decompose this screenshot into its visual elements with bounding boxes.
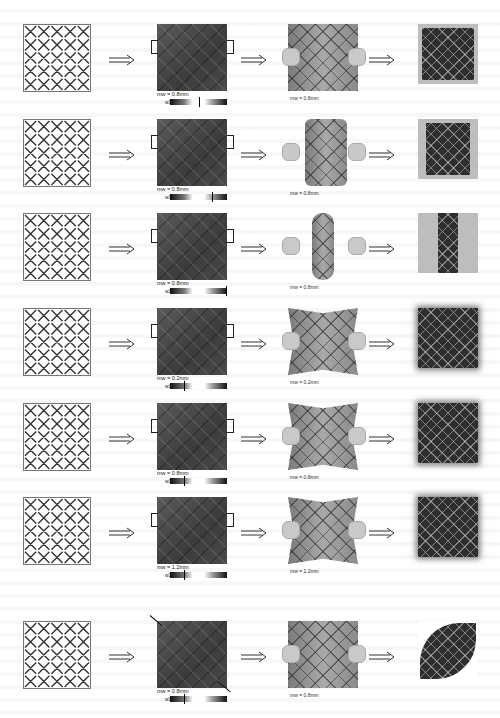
figure-row-4: mw = 0.2mm w1 = mw = 0.2mm [0,308,500,404]
implies-arrow-icon [240,527,268,539]
colorbar [170,288,227,294]
implies-arrow-icon [368,338,396,350]
implies-arrow-icon [240,243,268,255]
implies-arrow-icon [368,149,396,161]
colorbar-marker [199,97,200,107]
implies-arrow-icon [368,433,396,445]
colorbar [170,383,227,389]
sim-mw-label: mw = 0.8mm [157,280,189,286]
right-clamp-icon [227,135,234,149]
implies-arrow-icon [240,149,268,161]
x-lattice-icon [24,214,90,280]
left-finger-icon [282,143,300,161]
final-shape [418,403,478,463]
left-finger-icon [282,48,300,66]
right-clamp-icon [227,324,234,338]
simulated-pattern [157,497,227,564]
simulated-pattern [157,403,227,470]
implies-arrow-icon [108,651,136,663]
right-finger-icon [348,427,366,445]
implies-arrow-icon [368,243,396,255]
x-lattice-icon [24,404,90,470]
right-finger-icon [348,645,366,663]
implies-arrow-icon [108,243,136,255]
sim-mw-label: mw = 0.8mm [157,186,189,192]
colorbar-marker [184,476,185,486]
x-lattice-icon [24,309,90,375]
simulated-pattern [157,213,227,280]
colorbar [170,572,227,578]
figure-row-3: mw = 0.8mm w1 = mw = 0.8mm [0,213,500,309]
implies-arrow-icon [368,54,396,66]
right-clamp-icon [227,40,234,54]
right-clamp-icon [227,513,234,527]
lattice-pattern [23,119,91,187]
implies-arrow-icon [108,338,136,350]
final-shape [418,213,478,273]
left-finger-icon [282,427,300,445]
colorbar-marker [184,381,185,391]
implies-arrow-icon [368,527,396,539]
deformation-photo [312,213,334,280]
left-finger-icon [282,645,300,663]
implies-arrow-icon [368,651,396,663]
x-lattice-icon [24,120,90,186]
figure-row-7: mw = 0.8mm w1 = mw = 0.8mm [0,621,500,717]
x-lattice-icon [24,498,90,564]
left-clamp-icon [151,513,158,527]
final-shape [418,24,478,84]
colorbar [170,696,227,702]
colorbar [170,478,227,484]
figure-row-5: mw = 0.8mm w1 = mw = 0.8mm [0,403,500,499]
deformation-photo [305,119,347,186]
simulated-pattern [157,621,227,688]
implies-arrow-icon [108,527,136,539]
implies-arrow-icon [108,149,136,161]
figure-row-6: mw = 1.2mm w1 = mw = 1.2mm [0,497,500,593]
lattice-pattern [23,403,91,471]
photo-mw-label: mw = 0.8mm [290,190,319,196]
right-finger-icon [348,237,366,255]
photo-mw-label: mw = 0.8mm [290,95,319,101]
simulated-pattern [157,119,227,186]
simulated-pattern [157,308,227,375]
left-finger-icon [282,332,300,350]
figure-row-2: mw = 0.8mm w1 = mw = 0.8mm [0,119,500,215]
implies-arrow-icon [240,338,268,350]
right-finger-icon [348,332,366,350]
implies-arrow-icon [108,433,136,445]
right-clamp-icon [227,419,234,433]
final-shape [418,308,478,368]
left-finger-icon [282,237,300,255]
left-clamp-icon [151,40,158,54]
colorbar [170,194,227,200]
simulated-pattern [157,24,227,91]
implies-arrow-icon [240,433,268,445]
x-lattice-icon [24,25,90,91]
x-lattice-icon [24,622,90,688]
figure-row-1: mw = 0.8mm w1 = mw = 0.8mm [0,24,500,120]
colorbar-marker [212,192,213,202]
left-clamp-icon [151,324,158,338]
implies-arrow-icon [240,651,268,663]
right-finger-icon [348,521,366,539]
final-shape [418,119,478,179]
colorbar-marker [226,286,227,296]
lattice-pattern [23,213,91,281]
implies-arrow-icon [240,54,268,66]
photo-mw-label: mw = 0.8mm [290,474,319,480]
left-clamp-icon [151,419,158,433]
left-clamp-icon [151,229,158,243]
lattice-pattern [23,621,91,689]
lattice-pattern [23,497,91,565]
photo-mw-label: mw = 0.8mm [290,284,319,290]
right-finger-icon [348,48,366,66]
photo-mw-label: mw = 1.2mm [290,568,319,574]
right-clamp-icon [227,229,234,243]
colorbar-marker [184,570,185,580]
right-finger-icon [348,143,366,161]
photo-mw-label: mw = 0.8mm [290,692,319,698]
colorbar-marker [184,694,185,704]
sim-mw-label: mw = 0.8mm [157,91,189,97]
left-finger-icon [282,521,300,539]
